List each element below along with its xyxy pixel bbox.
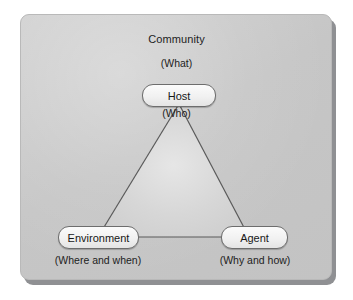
community-title: Community bbox=[0, 33, 353, 45]
node-environment[interactable]: Environment bbox=[58, 226, 139, 249]
triangle-interior bbox=[98, 104, 249, 237]
node-agent-label: Agent bbox=[240, 232, 269, 244]
node-environment-label: Environment bbox=[68, 232, 130, 244]
community-caption: (What) bbox=[0, 57, 353, 69]
figure-canvas: Community (What) Host (Who) Environment … bbox=[0, 0, 353, 300]
node-host-label: Host bbox=[168, 90, 191, 102]
node-environment-caption: (Where and when) bbox=[32, 254, 164, 266]
node-host-caption: (Who) bbox=[0, 107, 353, 119]
node-agent-caption: (Why and how) bbox=[196, 254, 314, 266]
node-host[interactable]: Host bbox=[142, 84, 216, 107]
node-agent[interactable]: Agent bbox=[221, 226, 288, 249]
